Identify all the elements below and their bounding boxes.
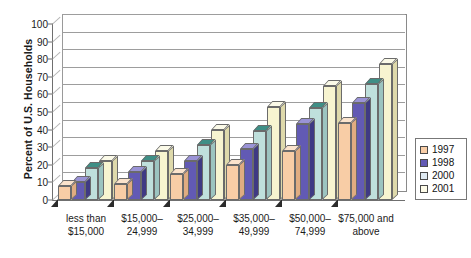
y-tick-mark — [48, 76, 53, 77]
gridline — [62, 67, 405, 68]
bar-side — [210, 140, 216, 200]
bar-1997-1 — [58, 186, 71, 200]
legend: 1997199820002001 — [415, 138, 467, 200]
legend-label-1998: 1998 — [432, 157, 454, 168]
bar-face — [226, 165, 239, 200]
legend-label-2000: 2000 — [432, 170, 454, 181]
bar-side — [197, 156, 203, 200]
plot-area: 0102030405060708090100 — [52, 14, 405, 200]
y-tick-mark — [48, 41, 53, 42]
legend-swatch-1998 — [420, 159, 428, 167]
y-tick-label: 90 — [24, 36, 48, 47]
bar-1997-4 — [226, 165, 239, 200]
y-tick-label: 40 — [24, 124, 48, 135]
bar-side — [378, 78, 384, 200]
bar-face — [338, 123, 351, 200]
y-tick-label: 100 — [24, 19, 48, 30]
y-tick-mark — [48, 94, 53, 95]
legend-swatch-1997 — [420, 146, 428, 154]
legend-label-2001: 2001 — [432, 183, 454, 194]
legend-swatch-2001 — [420, 185, 428, 193]
bar-group-shadow — [107, 199, 114, 207]
gridline — [62, 49, 405, 50]
bar-side — [309, 119, 315, 200]
y-tick-label: 50 — [24, 107, 48, 118]
y-tick-mark — [48, 182, 53, 183]
legend-item-1997[interactable]: 1997 — [420, 143, 463, 156]
bar-group-shadow — [331, 199, 338, 207]
bar-group-shadow — [275, 199, 282, 207]
y-tick-label: 70 — [24, 71, 48, 82]
y-tick-label: 30 — [24, 142, 48, 153]
y-tick-label: 80 — [24, 54, 48, 65]
y-tick-mark — [48, 129, 53, 130]
bar-group-shadow — [51, 199, 58, 207]
bar-1997-6 — [338, 123, 351, 200]
legend-item-2000[interactable]: 2000 — [420, 169, 463, 182]
y-tick-mark — [48, 59, 53, 60]
bar-side — [98, 163, 104, 200]
bar-side — [365, 98, 371, 200]
x-axis-line — [52, 200, 405, 201]
bar-side — [295, 145, 301, 200]
y-tick-label: 60 — [24, 89, 48, 100]
bar-side — [239, 159, 245, 200]
gridline — [62, 32, 405, 33]
gridline — [62, 84, 405, 85]
x-axis-label-line: above — [326, 225, 406, 238]
bar-1997-5 — [282, 151, 295, 200]
bar-face — [282, 151, 295, 200]
bar-group-shadow — [219, 199, 226, 207]
bar-side — [154, 156, 160, 200]
y-tick-mark — [48, 112, 53, 113]
chart-container: Percent of U.S. Households 0102030405060… — [0, 0, 471, 258]
bar-face — [58, 186, 71, 200]
y-tick-mark — [48, 147, 53, 148]
y-tick-label: 10 — [24, 177, 48, 188]
bar-side — [266, 126, 272, 200]
legend-item-2001[interactable]: 2001 — [420, 182, 463, 195]
y-tick-mark — [48, 164, 53, 165]
x-axis-label-6: $75,000 andabove — [326, 212, 406, 238]
bar-side — [351, 117, 357, 200]
x-axis-label-line: $75,000 and — [326, 212, 406, 225]
gridline — [62, 14, 405, 15]
bar-group-shadow — [163, 199, 170, 207]
bar-side — [322, 103, 328, 200]
legend-item-1998[interactable]: 1998 — [420, 156, 463, 169]
bar-face — [114, 184, 127, 200]
bar-face — [170, 174, 183, 200]
bar-1997-2 — [114, 184, 127, 200]
bar-side — [253, 144, 259, 200]
legend-label-1997: 1997 — [432, 144, 454, 155]
legend-swatch-2000 — [420, 172, 428, 180]
y-tick-mark — [48, 24, 53, 25]
y-tick-label: 20 — [24, 159, 48, 170]
bar-side — [392, 59, 398, 200]
bar-1997-3 — [170, 174, 183, 200]
y-tick-label: 0 — [24, 195, 48, 206]
